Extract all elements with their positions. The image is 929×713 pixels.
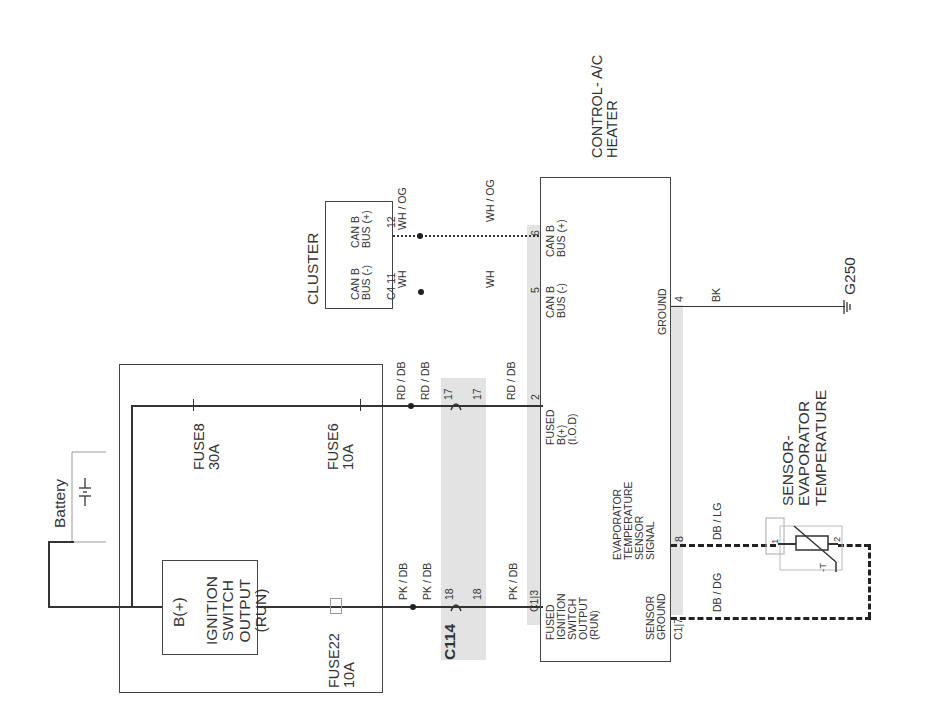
sensor-title: SENSOR- EVAPORATOR TEMPERATURE — [780, 390, 829, 506]
control-can-plus-label: CAN B BUS (+) — [545, 219, 567, 257]
wire-label-pk-db-2: PK / DB — [422, 563, 433, 600]
wire-label-bk: BK — [711, 288, 722, 302]
wire-battery-top — [48, 541, 74, 543]
wire-label-db-lg: DB / LG — [712, 503, 723, 540]
ground-symbol-icon — [843, 298, 855, 316]
ignition-bplus-label: B(+) — [171, 597, 187, 627]
control-pin-3: C1|3 — [529, 590, 540, 612]
control-pin-7: C1|7 — [673, 618, 684, 640]
c114-terminal-18-icon — [450, 599, 462, 613]
wire-label-wh-cluster: WH — [397, 271, 408, 289]
c114-label: C114 — [442, 624, 458, 660]
wire-bplus-bus — [48, 606, 162, 608]
battery-icon — [70, 450, 100, 560]
thermistor-sensor-icon — [766, 514, 846, 584]
control-ground-label: GROUND — [657, 288, 668, 335]
control-ground-band — [670, 305, 683, 615]
wire-label-whog-cluster: WH / OG — [397, 187, 408, 230]
control-fused-bplus-label: FUSED B(+) (I.O.D) — [545, 409, 578, 445]
splice-dot-can-minus — [418, 289, 424, 295]
fuse8-marker — [193, 399, 194, 411]
wire-sensor-return — [868, 544, 871, 618]
battery-label: Battery — [52, 479, 68, 528]
fuse22-marker — [330, 598, 342, 614]
c114-connector-band — [441, 378, 486, 660]
fuse6-marker — [360, 399, 361, 411]
wire-label-pk-db-1: PK / DB — [398, 563, 409, 600]
c114-pin-18b: 18 — [472, 588, 483, 600]
control-fused-ign-label: FUSED IGNITION SWITCH OUTPUT (RUN) — [545, 593, 600, 640]
wire-label-whog-control: WH / OG — [485, 179, 496, 222]
sensor-pin-1: 1 — [770, 539, 780, 544]
wire-ground — [671, 306, 845, 307]
wire-fuse-feed — [131, 405, 133, 606]
wire-label-rd-db-2: RD / DB — [420, 361, 431, 400]
wire-can-plus — [393, 235, 539, 237]
wire-battery-lead — [48, 541, 50, 606]
wire-label-pk-db-3: PK / DB — [508, 563, 519, 600]
cluster-can-plus-label: CAN B BUS (+) — [350, 210, 372, 248]
fuse6-label: FUSE6 10A — [326, 423, 356, 470]
wire-label-wh-control: WH — [485, 271, 496, 289]
control-connector-band — [527, 225, 541, 625]
control-can-minus-label: CAN B BUS (-) — [545, 283, 567, 318]
control-title: CONTROL- A/C HEATER — [590, 55, 620, 158]
sensor-t-symbol: -T — [818, 563, 828, 572]
ignition-switch-label: IGNITION SWITCH OUTPUT (RUN) — [204, 576, 269, 645]
wire-sensor-ground — [671, 617, 871, 620]
control-pin-4: 4 — [674, 296, 685, 302]
control-evap-signal-label: EVAPORATOR TEMPERATURE SENSOR SIGNAL — [612, 481, 656, 560]
wire-ignition-output — [258, 606, 543, 608]
control-pin-8: 8 — [674, 536, 685, 542]
splice-dot-bplus — [408, 403, 414, 409]
wire-label-rd-db-1: RD / DB — [396, 361, 407, 400]
wire-label-rd-db-3: RD / DB — [506, 361, 517, 400]
cluster-can-minus-label: CAN B BUS (-) — [350, 265, 372, 300]
fuse8-label: FUSE8 30A — [192, 423, 222, 470]
ground-g250-label: G250 — [842, 257, 858, 295]
fuse22-label: FUSE22 10A — [327, 633, 357, 688]
wire-label-db-dg: DB / DG — [712, 573, 723, 612]
wire-evap-signal — [671, 544, 776, 547]
c114-terminal-17-icon — [450, 398, 462, 412]
c114-pin-17b: 17 — [472, 388, 483, 400]
control-sensor-ground-label: SENSOR GROUND — [645, 593, 667, 640]
splice-dot-ign — [410, 604, 416, 610]
splice-dot-can-plus — [417, 233, 423, 239]
sensor-pin-2: 2 — [832, 537, 842, 542]
cluster-title: CLUSTER — [305, 233, 321, 305]
